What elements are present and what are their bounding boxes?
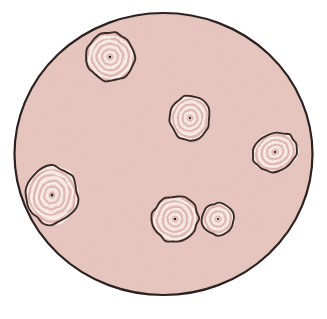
petri-dish-image <box>0 0 327 319</box>
dish-group <box>15 13 313 295</box>
screenshot-canvas <box>0 0 327 319</box>
